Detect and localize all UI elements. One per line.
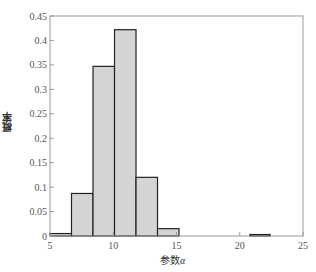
y-tick-label: 0.15 [30, 157, 48, 168]
y-tick-label: 0.1 [35, 182, 48, 193]
y-tick-label: 0.05 [30, 206, 48, 217]
x-axis-title: 参数α [160, 252, 185, 267]
histogram-bar [158, 229, 180, 236]
histogram-bar [72, 193, 94, 236]
histogram-bars [50, 30, 270, 236]
x-tick-label: 5 [48, 240, 53, 251]
y-tick-label: 0.25 [30, 108, 48, 119]
histogram-bar [115, 30, 137, 236]
y-axis-title: 概率 [2, 112, 14, 132]
y-tick-label: 0 [42, 231, 47, 242]
y-tick-label: 0.4 [35, 35, 48, 46]
y-tick-label: 0.35 [30, 59, 48, 70]
x-axis-title-text: 参数 [160, 255, 180, 266]
x-tick-label: 25 [298, 240, 308, 251]
x-tick-label: 20 [235, 240, 245, 251]
y-tick-label: 0.2 [35, 133, 48, 144]
y-tick-label: 0.3 [35, 84, 48, 95]
histogram-chart: 00.050.10.150.20.250.30.350.40.45 510152… [0, 0, 316, 272]
histogram-bar [93, 66, 115, 236]
histogram-bar [136, 177, 158, 236]
x-tick-label: 15 [172, 240, 182, 251]
y-tick-label: 0.45 [30, 11, 48, 22]
x-axis-title-symbol: α [180, 255, 185, 266]
x-tick-label: 10 [108, 240, 118, 251]
